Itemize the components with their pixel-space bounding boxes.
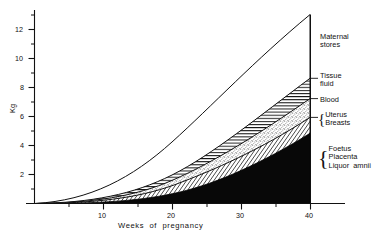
x-tick-label-10: 10	[98, 211, 106, 220]
y-tick-label-4: 4	[20, 141, 24, 150]
weight-gain-pregnancy-figure: 12 10 8 6 4 2 Kg 10 20 30 40 Weeks of pr…	[0, 0, 387, 236]
x-tick-label-40: 40	[305, 211, 313, 220]
legend-item-foetus-group: { Foetus Placenta Liquor amnii	[318, 145, 371, 170]
x-tick-label-30: 30	[236, 211, 244, 220]
legend-label-uterus-breasts: Uterus Breasts	[325, 111, 350, 128]
y-tick-label-10: 10	[15, 54, 23, 63]
brace-icon-uterus-breasts: {	[318, 115, 325, 123]
y-tick-label-12: 12	[15, 25, 23, 34]
x-tick-label-20: 20	[167, 211, 175, 220]
y-tick-label-8: 8	[20, 83, 24, 92]
y-tick-label-2: 2	[20, 170, 24, 179]
legend-label-blood: Blood	[320, 96, 339, 104]
y-tick-label-6: 6	[20, 112, 24, 121]
y-axis-title: Kg	[8, 99, 17, 119]
legend-item-uterus-breasts: { Uterus Breasts	[318, 111, 350, 128]
legend-leader-lines	[311, 78, 319, 117]
legend-label-maternal-stores: Maternal stores	[320, 33, 349, 50]
brace-icon-foetus-group: {	[318, 154, 329, 162]
legend-item-blood: Blood	[320, 96, 339, 104]
x-axis-title: Weeks of pregnancy	[118, 221, 203, 230]
legend-label-tissue-fluid: Tissue fluid	[320, 72, 342, 89]
legend-item-tissue-fluid: Tissue fluid	[320, 72, 342, 89]
legend-item-maternal-stores: Maternal stores	[320, 33, 349, 50]
legend-label-foetus-group: Foetus Placenta Liquor amnii	[329, 145, 371, 170]
